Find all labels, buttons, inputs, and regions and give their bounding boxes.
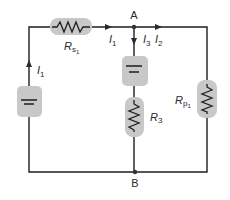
rp1-label-main: R (175, 94, 183, 106)
r3-label-main: R (150, 111, 158, 123)
resistor-r3 (125, 97, 144, 137)
current-i2-label: I2 (155, 33, 163, 48)
current-top-label: I1 (109, 33, 117, 48)
rp1-label-subsub: 1 (187, 103, 191, 109)
rs1-label-main: R (64, 40, 72, 52)
node-b-dot (133, 170, 137, 174)
r3-label-sub: 3 (158, 116, 163, 125)
battery-middle (122, 56, 148, 86)
current-i3-sub: 3 (146, 39, 151, 48)
arrow-right-icon (105, 24, 112, 30)
resistor-rs1 (50, 18, 92, 35)
rs1-label: Rs1 (64, 40, 80, 55)
wire-left-bottom (29, 104, 207, 172)
resistor-rp1 (197, 80, 217, 118)
node-b-label: B (131, 177, 138, 189)
current-i3-label: I3 (143, 33, 151, 48)
current-i2-sub: 2 (158, 39, 163, 48)
middle-battery-highlight (122, 56, 148, 86)
left-battery-highlight (17, 86, 42, 117)
rs1-label-subsub: 1 (76, 49, 80, 55)
circuit-diagram: A B Rs1 Rp1 R3 I1 I1 I3 I2 (0, 0, 230, 200)
node-a-dot (132, 25, 136, 29)
arrow-up-icon (26, 60, 32, 67)
current-left-label: I1 (37, 64, 45, 79)
battery-left (17, 86, 42, 117)
current-left-sub: 1 (40, 70, 45, 79)
arrow-right-icon (155, 24, 162, 30)
current-top-sub: 1 (112, 39, 117, 48)
rp1-label: Rp1 (175, 94, 191, 109)
arrow-down-icon (131, 38, 137, 45)
node-a-label: A (130, 9, 138, 21)
r3-label: R3 (150, 111, 163, 125)
